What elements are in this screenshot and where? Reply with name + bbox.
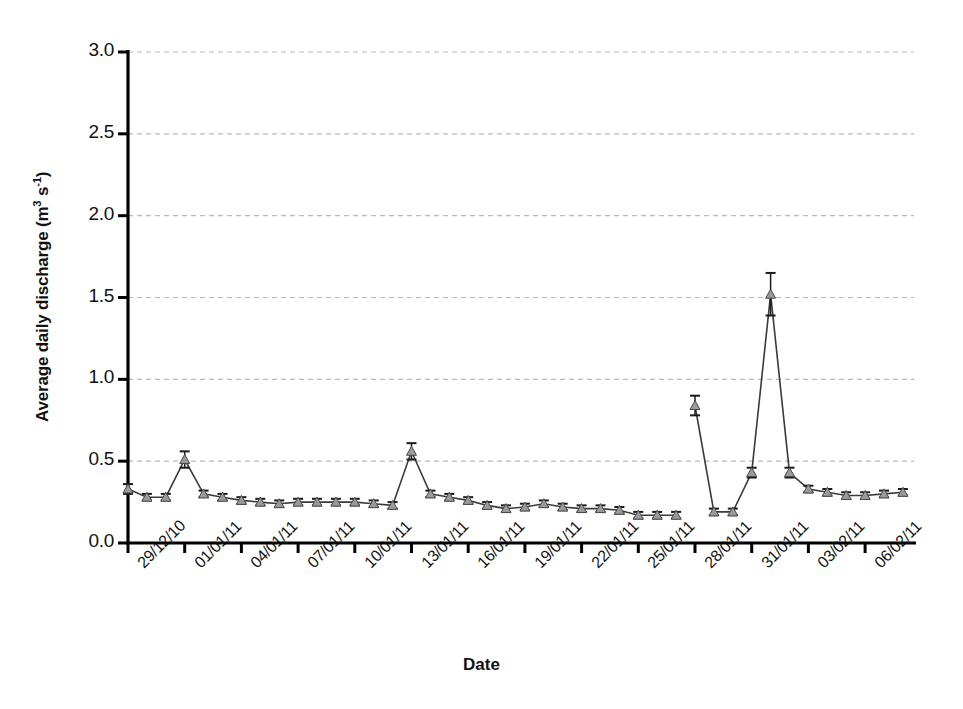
chart-figure: Average daily discharge (m3 s-1) Date 0.… xyxy=(0,0,963,709)
data-marker-triangle xyxy=(180,455,190,464)
data-point xyxy=(199,489,209,498)
data-point xyxy=(123,484,133,494)
data-marker-triangle xyxy=(766,289,776,298)
data-point xyxy=(785,468,795,478)
data-point xyxy=(539,499,549,508)
data-point xyxy=(690,396,700,416)
data-point xyxy=(747,468,757,478)
data-point xyxy=(425,489,435,498)
data-point xyxy=(803,484,813,493)
data-marker-triangle xyxy=(690,401,700,410)
data-marker-triangle xyxy=(785,468,795,477)
plot-area xyxy=(0,0,963,709)
data-point xyxy=(407,443,417,459)
data-point xyxy=(766,273,776,316)
data-marker-triangle xyxy=(407,446,417,455)
data-series-line xyxy=(695,294,903,512)
data-marker-triangle xyxy=(747,468,757,477)
data-marker-triangle xyxy=(123,484,133,493)
